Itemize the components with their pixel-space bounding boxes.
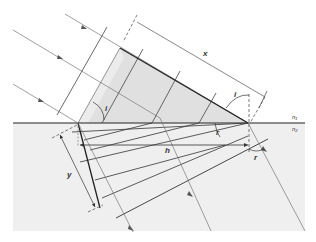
label-n2: n₂ bbox=[292, 126, 298, 132]
lower-medium-region bbox=[13, 123, 305, 231]
ray-arrow-icon bbox=[38, 98, 44, 102]
ray-arrow-icon bbox=[57, 55, 63, 59]
angle-i-arc-right bbox=[226, 95, 249, 108]
label-h: h bbox=[165, 146, 170, 155]
x-dim-dashed bbox=[250, 97, 265, 123]
x-dim-tick bbox=[123, 15, 137, 42]
refraction-diagram: x i i h y r r n₁ n₂ bbox=[0, 0, 316, 242]
label-n1: n₁ bbox=[292, 114, 297, 120]
label-x: x bbox=[202, 49, 208, 58]
x-dim-tick bbox=[259, 91, 267, 108]
label-y: y bbox=[66, 170, 72, 179]
incident-ray bbox=[13, 84, 78, 123]
